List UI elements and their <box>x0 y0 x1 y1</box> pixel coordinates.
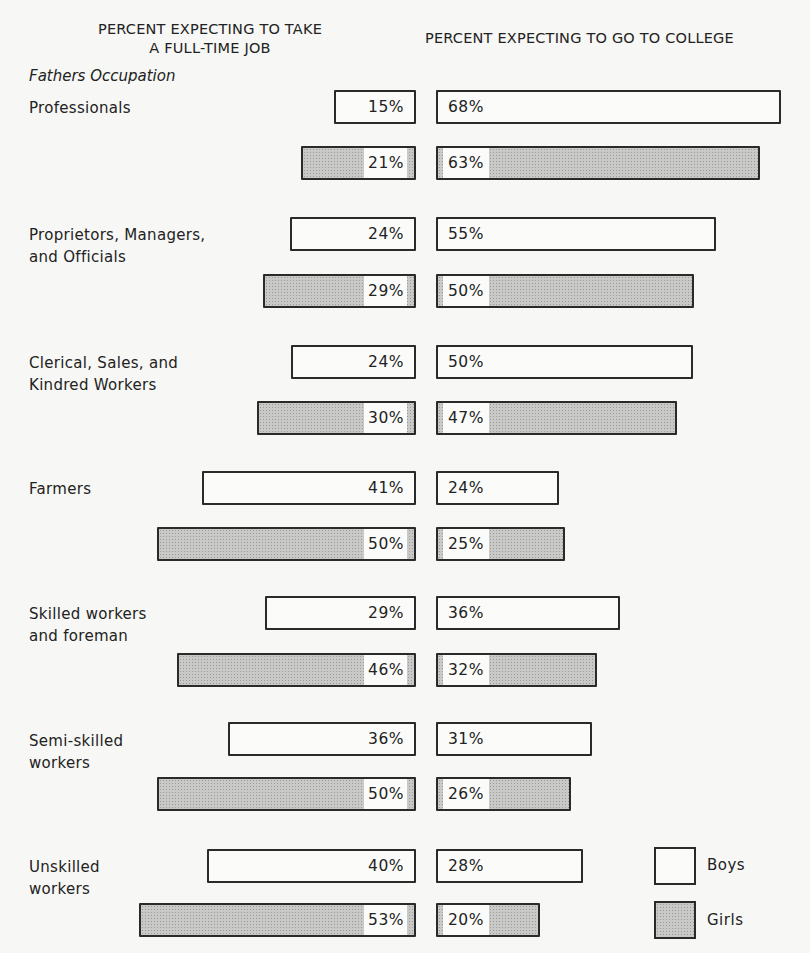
bar-boys-job: 29% <box>265 596 416 630</box>
category-line1: Clerical, Sales, and <box>29 352 178 374</box>
value-label: 53% <box>364 905 407 935</box>
category-label: Proprietors, Managers, and Officials <box>29 224 205 268</box>
value-label: 31% <box>448 724 484 754</box>
legend-swatch-boys <box>654 847 696 885</box>
bar-boys-college: 31% <box>436 722 592 756</box>
bar-boys-college: 68% <box>436 90 781 124</box>
category-label: Skilled workers and foreman <box>29 603 147 647</box>
bar-girls-job: 46% <box>177 653 416 687</box>
bar-boys-job: 36% <box>228 722 416 756</box>
bar-girls-college: 25% <box>436 527 565 561</box>
category-line1: Farmers <box>29 478 91 500</box>
category-label: Farmers <box>29 478 91 500</box>
bar-girls-job: 50% <box>157 777 416 811</box>
bar-boys-job: 15% <box>334 90 416 124</box>
category-line2: workers <box>29 752 123 774</box>
category-label: Semi-skilled workers <box>29 730 123 774</box>
category-line2: Kindred Workers <box>29 374 178 396</box>
college-chart-title: PERCENT EXPECTING TO GO TO COLLEGE <box>425 29 805 48</box>
row-axis-label: Fathers Occupation <box>29 67 175 85</box>
value-label: 29% <box>364 276 407 306</box>
category-line2: workers <box>29 878 100 900</box>
value-label: 36% <box>448 598 484 628</box>
value-label: 29% <box>368 598 404 628</box>
category-line1: Semi-skilled <box>29 730 123 752</box>
bar-boys-job: 24% <box>291 345 416 379</box>
legend-swatch-girls <box>654 901 696 939</box>
value-label: 47% <box>443 403 489 433</box>
category-line1: Professionals <box>29 97 131 119</box>
value-label: 25% <box>443 529 489 559</box>
bar-girls-job: 21% <box>301 146 416 180</box>
bar-girls-college: 47% <box>436 401 677 435</box>
value-label: 24% <box>368 347 404 377</box>
value-label: 68% <box>448 92 484 122</box>
value-label: 50% <box>448 347 484 377</box>
value-label: 40% <box>368 851 404 881</box>
category-line1: Proprietors, Managers, <box>29 224 205 246</box>
bar-boys-job: 40% <box>207 849 416 883</box>
category-line2: and Officials <box>29 246 205 268</box>
category-label: Clerical, Sales, and Kindred Workers <box>29 352 178 396</box>
value-label: 24% <box>448 473 484 503</box>
bar-girls-job: 50% <box>157 527 416 561</box>
job-chart-title: PERCENT EXPECTING TO TAKE A FULL-TIME JO… <box>60 20 360 58</box>
category-line2: and foreman <box>29 625 147 647</box>
category-label: Unskilled workers <box>29 856 100 900</box>
bar-girls-college: 63% <box>436 146 760 180</box>
bar-boys-college: 50% <box>436 345 693 379</box>
legend-label-girls: Girls <box>707 911 743 929</box>
value-label: 36% <box>368 724 404 754</box>
category-label: Professionals <box>29 97 131 119</box>
value-label: 15% <box>368 92 404 122</box>
value-label: 21% <box>364 148 407 178</box>
bar-boys-job: 24% <box>290 217 416 251</box>
value-label: 32% <box>443 655 489 685</box>
job-title-line2: A FULL-TIME JOB <box>60 39 360 58</box>
bar-girls-college: 32% <box>436 653 597 687</box>
value-label: 50% <box>364 529 407 559</box>
value-label: 50% <box>364 779 407 809</box>
bar-girls-college: 20% <box>436 903 540 937</box>
bar-girls-job: 53% <box>139 903 416 937</box>
value-label: 20% <box>443 905 489 935</box>
bar-boys-job: 41% <box>202 471 416 505</box>
bar-boys-college: 55% <box>436 217 716 251</box>
category-line1: Skilled workers <box>29 603 147 625</box>
value-label: 50% <box>443 276 489 306</box>
category-line1: Unskilled <box>29 856 100 878</box>
bar-boys-college: 36% <box>436 596 620 630</box>
bar-girls-job: 29% <box>263 274 416 308</box>
value-label: 26% <box>443 779 489 809</box>
value-label: 30% <box>364 403 407 433</box>
value-label: 41% <box>368 473 404 503</box>
value-label: 55% <box>448 219 484 249</box>
bar-boys-college: 24% <box>436 471 559 505</box>
bar-boys-college: 28% <box>436 849 583 883</box>
value-label: 28% <box>448 851 484 881</box>
job-title-line1: PERCENT EXPECTING TO TAKE <box>60 20 360 39</box>
legend-label-boys: Boys <box>707 856 745 874</box>
value-label: 63% <box>443 148 489 178</box>
bar-girls-college: 50% <box>436 274 694 308</box>
value-label: 46% <box>364 655 407 685</box>
bar-girls-college: 26% <box>436 777 571 811</box>
bar-girls-job: 30% <box>257 401 416 435</box>
value-label: 24% <box>368 219 404 249</box>
